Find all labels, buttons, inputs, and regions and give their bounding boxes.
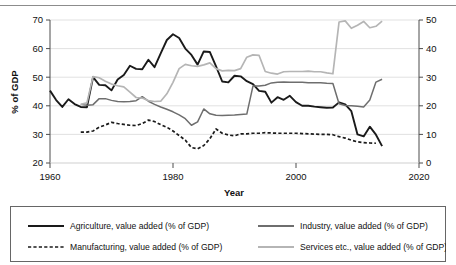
x-tick-label: 2020 <box>408 171 429 182</box>
y-tick-label-left: 50 <box>32 72 43 83</box>
legend-box: Agriculture, value added (% of GDP)Indus… <box>10 206 446 262</box>
y-tick-label-right: 10 <box>426 129 437 140</box>
y-tick-label-left: 40 <box>32 100 43 111</box>
legend-label-0: Agriculture, value added (% of GDP) <box>70 221 209 231</box>
y-tick-label-right: 40 <box>426 43 437 54</box>
legend-label-2: Manufacturing, value added (% of GDP) <box>70 242 223 252</box>
x-axis-ticks: 1960198020002020 <box>39 163 429 182</box>
y-axis-right-ticks: 01020304050 <box>419 14 437 168</box>
y-tick-label-left: 20 <box>32 157 43 168</box>
x-axis-label: Year <box>224 187 244 198</box>
legend-label-3: Services etc., value added (% of GDP) <box>300 242 446 252</box>
y-tick-label-left: 60 <box>32 43 43 54</box>
y-tick-label-right: 20 <box>426 100 437 111</box>
y-tick-label-left: 70 <box>32 14 43 25</box>
y-tick-label-right: 50 <box>426 14 437 25</box>
series-line-2 <box>81 79 382 125</box>
x-tick-label: 1980 <box>162 171 183 182</box>
chart-figure: 203040506070 01020304050 196019802000202… <box>0 0 456 265</box>
y-axis-label: % of GDP <box>9 70 20 114</box>
x-tick-label: 1960 <box>39 171 60 182</box>
y-tick-label-right: 30 <box>426 72 437 83</box>
gridlines-group <box>50 20 419 163</box>
x-tick-label: 2000 <box>285 171 306 182</box>
series-line-3 <box>81 21 382 105</box>
legend-label-1: Industry, value added (% of GDP) <box>300 221 428 231</box>
series-group <box>50 21 382 149</box>
y-tick-label-right: 0 <box>426 157 431 168</box>
legend-border <box>11 207 446 262</box>
y-tick-label-left: 30 <box>32 129 43 140</box>
y-axis-left-ticks: 203040506070 <box>32 14 50 168</box>
